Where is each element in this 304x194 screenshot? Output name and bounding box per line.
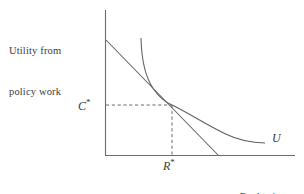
- c-star-asterisk: *: [86, 97, 91, 107]
- budget-constraint-line: [106, 40, 218, 155]
- curve-label-u: U: [272, 131, 281, 147]
- x-axis-title-line-1: Reelection: [240, 190, 286, 194]
- y-axis-title-line-1: Utility from: [9, 44, 61, 58]
- x-axis-title: Reelection hours: [240, 163, 286, 194]
- indifference-curve-u: [141, 38, 265, 143]
- y-axis-title-line-2: policy work: [9, 85, 61, 99]
- y-axis-title: Utility from policy work: [9, 17, 61, 126]
- figure-canvas: Utility from policy work Reelection hour…: [0, 0, 304, 194]
- c-star-axis-label: C*: [78, 97, 91, 115]
- r-star-axis-label: R*: [163, 157, 175, 175]
- r-star-asterisk: *: [170, 157, 175, 167]
- c-star-letter: C: [78, 99, 86, 113]
